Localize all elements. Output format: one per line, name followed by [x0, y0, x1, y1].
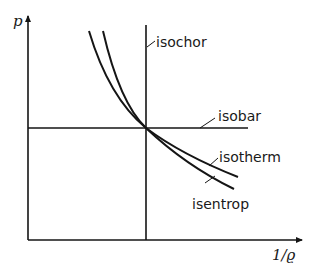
p-v-diagram: p 1/ϱ isochor isobar isotherm isentrop: [0, 0, 310, 276]
isentrop-label: isentrop: [192, 196, 249, 212]
y-axis-label: p: [13, 12, 23, 30]
isentrop-curve: [103, 31, 234, 189]
isobar-label: isobar: [218, 108, 261, 124]
isotherm-curve: [89, 31, 238, 177]
isobar-leader: [200, 118, 215, 128]
isochor-leader: [147, 41, 155, 47]
isochor-label: isochor: [156, 34, 207, 50]
isotherm-leader: [209, 158, 218, 166]
isotherm-label: isotherm: [219, 149, 281, 165]
x-axis-label: 1/ϱ: [272, 246, 296, 264]
